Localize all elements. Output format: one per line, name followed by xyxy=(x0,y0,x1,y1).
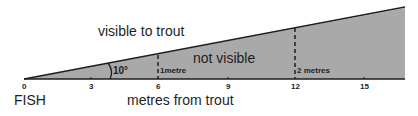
angle-label: 10° xyxy=(113,66,128,76)
not-visible-label: not visible xyxy=(193,51,255,65)
height-2m-label: 2 metres xyxy=(297,67,330,75)
height-1m-label: 1metre xyxy=(160,67,186,75)
axis-tick-label: 3 xyxy=(89,83,93,91)
axis-tick-label: 0 xyxy=(22,83,26,91)
visible-to-trout-label: visible to trout xyxy=(98,24,184,38)
axis-title: metres from trout xyxy=(127,93,234,107)
fish-label: FISH xyxy=(14,93,46,107)
axis-tick-label: 9 xyxy=(226,83,230,91)
axis-tick-label: 15 xyxy=(360,83,369,91)
axis-tick-label: 6 xyxy=(156,83,160,91)
axis-tick-label: 12 xyxy=(291,83,300,91)
